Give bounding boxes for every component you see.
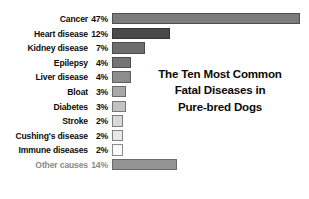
bar-row: Other causes14% xyxy=(0,158,309,173)
bar-row-value: 2% xyxy=(88,146,108,155)
bar-row: Immune diseases2% xyxy=(0,143,309,158)
bar-row-label: Diabetes xyxy=(0,103,88,112)
bar-row-value: 12% xyxy=(88,30,108,39)
bar xyxy=(112,71,131,82)
bar-row-value: 4% xyxy=(88,59,108,68)
chart-title-line-3: Pure-bred Dogs xyxy=(140,99,300,115)
bar-chart: Cancer47%Heart disease12%Kidney disease7… xyxy=(0,0,309,199)
bar xyxy=(112,130,123,141)
bar-row-label: Liver disease xyxy=(0,73,88,82)
bar-row: Cancer47% xyxy=(0,12,309,27)
bar-row-value: 2% xyxy=(88,117,108,126)
bar-track xyxy=(112,129,309,144)
bar-row-label: Bloat xyxy=(0,88,88,97)
bar-row-value: 2% xyxy=(88,132,108,141)
bar-row-value: 7% xyxy=(88,44,108,53)
bar xyxy=(112,57,131,68)
bar-row-value: 3% xyxy=(88,103,108,112)
bar-row-label: Kidney disease xyxy=(0,44,88,53)
bar xyxy=(112,28,170,39)
bar-track xyxy=(112,143,309,158)
bar xyxy=(112,159,177,170)
bar xyxy=(112,144,123,155)
bar-row-label: Epilepsy xyxy=(0,59,88,68)
chart-title-line-1: The Ten Most Common xyxy=(140,66,300,82)
bar-row-label: Cushing's disease xyxy=(0,132,88,141)
bar-row-label: Other causes xyxy=(0,161,88,170)
bar-row: Heart disease12% xyxy=(0,27,309,42)
bar-track xyxy=(112,41,309,56)
bar-row-value: 4% xyxy=(88,73,108,82)
bar xyxy=(112,115,123,126)
bar-track xyxy=(112,27,309,42)
bar-row-label: Heart disease xyxy=(0,30,88,39)
bar-row: Kidney disease7% xyxy=(0,41,309,56)
bar-row: Stroke2% xyxy=(0,114,309,129)
bar xyxy=(112,101,126,112)
bar xyxy=(112,86,126,97)
bar-row-label: Cancer xyxy=(0,15,88,24)
bar-row-value: 47% xyxy=(88,15,108,24)
bar-track xyxy=(112,114,309,129)
bar-row-label: Immune diseases xyxy=(0,146,88,155)
bar xyxy=(112,42,145,53)
chart-title: The Ten Most Common Fatal Diseases in Pu… xyxy=(140,66,300,115)
bar xyxy=(112,13,300,24)
bar-row-label: Stroke xyxy=(0,117,88,126)
chart-title-line-2: Fatal Diseases in xyxy=(140,82,300,98)
bar-row-value: 3% xyxy=(88,88,108,97)
bar-row: Cushing's disease2% xyxy=(0,129,309,144)
bar-track xyxy=(112,158,309,173)
bar-track xyxy=(112,12,309,27)
bar-row-value: 14% xyxy=(88,161,108,170)
